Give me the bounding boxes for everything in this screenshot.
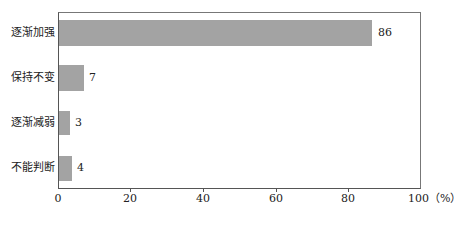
value-label-weakening: 3 <box>75 117 82 129</box>
x-tick-label-60: 60 <box>269 193 283 205</box>
bar-unchanged <box>59 65 84 91</box>
bar-weakening <box>59 111 70 135</box>
value-label-strengthening: 86 <box>378 27 392 39</box>
category-label-weakening: 逐渐减弱 <box>11 117 55 129</box>
category-label-cannot-judge: 不能判断 <box>11 162 55 174</box>
x-tick-label-100-unit: 100（%） <box>408 193 461 205</box>
x-tick-label-20: 20 <box>123 193 137 205</box>
value-label-unchanged: 7 <box>89 72 96 84</box>
x-tick-label-80: 80 <box>341 193 355 205</box>
x-tick-label-40: 40 <box>196 193 210 205</box>
category-label-unchanged: 保持不变 <box>11 72 55 84</box>
bar-strengthening <box>59 20 372 46</box>
x-tick-label-0: 0 <box>55 193 62 205</box>
category-label-strengthening: 逐渐加强 <box>11 27 55 39</box>
bar-cannot-judge <box>59 156 72 181</box>
value-label-cannot-judge: 4 <box>77 162 84 174</box>
